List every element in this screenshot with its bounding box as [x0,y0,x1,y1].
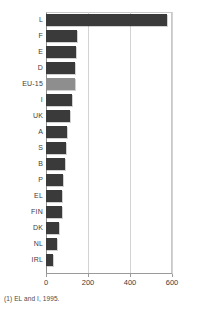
plot-area [46,12,172,274]
chart-footnote: (1) EL and I, 1995. [4,294,60,303]
bar-chart: LFEDEU-15IUKASBPELFINDKNLIRL 0200400600 … [0,0,208,309]
bar-i [46,94,72,106]
y-label-dk: DK [0,220,43,236]
bar-nl [46,238,57,250]
y-label-fin: FIN [0,204,43,220]
bar-row [46,124,172,140]
gridline-600 [172,12,173,274]
y-label-eu-15: EU-15 [0,76,43,92]
y-label-d: D [0,60,43,76]
bar-fin [46,206,62,218]
y-label-a: A [0,124,43,140]
bar-irl [46,254,53,266]
y-axis-category-labels: LFEDEU-15IUKASBPELFINDKNLIRL [0,12,43,274]
bar-row [46,236,172,252]
x-tick-label-400: 400 [124,277,137,288]
bar-row [46,108,172,124]
bar-row [46,12,172,28]
bar-rows [46,12,172,274]
bar-row [46,156,172,172]
y-label-irl: IRL [0,252,43,268]
x-axis-ticks: 0200400600 [46,274,172,288]
bar-row [46,28,172,44]
bar-el [46,190,62,202]
y-label-f: F [0,28,43,44]
y-label-el: EL [0,188,43,204]
bar-eu-15 [46,78,75,90]
bar-row [46,92,172,108]
y-label-s: S [0,140,43,156]
bar-uk [46,110,70,122]
bar-dk [46,222,59,234]
y-label-p: P [0,172,43,188]
bar-l [46,14,167,26]
bar-row [46,204,172,220]
bar-row [46,220,172,236]
bar-row [46,44,172,60]
bar-a [46,126,67,138]
bar-row [46,76,172,92]
y-label-l: L [0,12,43,28]
bar-row [46,172,172,188]
x-tick-label-600: 600 [166,277,179,288]
bar-f [46,30,77,42]
bar-row [46,188,172,204]
bar-p [46,174,63,186]
y-label-b: B [0,156,43,172]
y-label-e: E [0,44,43,60]
bar-row [46,140,172,156]
y-label-nl: NL [0,236,43,252]
bar-row [46,60,172,76]
bar-row [46,252,172,268]
bar-b [46,158,65,170]
bar-d [46,62,75,74]
y-label-i: I [0,92,43,108]
bar-e [46,46,76,58]
x-tick-label-0: 0 [44,277,48,288]
y-label-uk: UK [0,108,43,124]
bar-s [46,142,66,154]
x-tick-label-200: 200 [82,277,95,288]
